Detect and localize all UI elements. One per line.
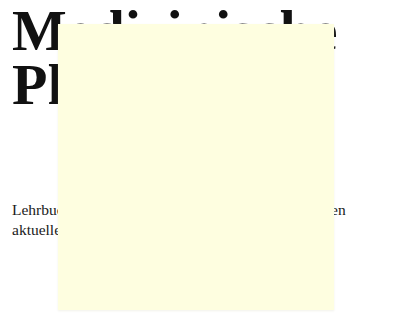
document-page: Medizinische Physiologie Lehrbuch der Ph…: [0, 0, 418, 322]
sticky-note-overlay[interactable]: [58, 24, 334, 310]
